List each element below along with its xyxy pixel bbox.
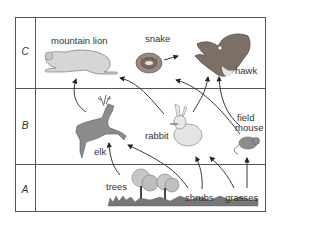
arrow-elk-to-mountain-lion — [74, 79, 86, 112]
field-mouse-icon — [234, 137, 259, 154]
label-mountain-lion: mountain lion — [51, 35, 108, 46]
arrow-shrubs-to-rabbit — [196, 157, 202, 189]
snake-icon — [136, 53, 162, 73]
rabbit-icon — [170, 104, 202, 146]
label-trees: trees — [106, 181, 127, 192]
label-field-mouse-line2: mouse — [235, 122, 264, 133]
label-hawk: hawk — [235, 65, 257, 76]
arrow-rabbit-to-mountain-lion — [120, 78, 164, 114]
label-snake: snake — [145, 33, 170, 44]
label-grasses: grasses — [225, 192, 258, 203]
mountain-lion-icon — [45, 50, 118, 74]
label-rabbit: rabbit — [145, 130, 169, 141]
arrow-trees-to-elk — [109, 143, 120, 175]
label-shrubs: shrubs — [185, 192, 214, 203]
arrow-snake-to-hawk — [164, 56, 178, 60]
arrow-grasses-to-rabbit — [210, 157, 234, 188]
label-elk: elk — [94, 146, 106, 157]
arrow-rabbit-to-hawk — [193, 77, 208, 112]
